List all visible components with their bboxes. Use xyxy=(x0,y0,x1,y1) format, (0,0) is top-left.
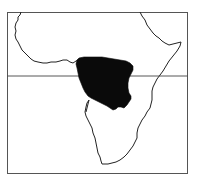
west-coastline xyxy=(15,12,78,63)
map-canvas xyxy=(0,0,197,177)
africa-map xyxy=(0,0,197,177)
shaded-range-region xyxy=(76,57,133,110)
